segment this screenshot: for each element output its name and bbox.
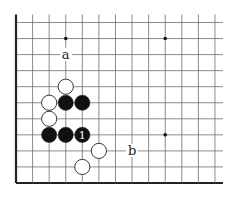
white-stone-icon [75, 159, 90, 174]
position-marker-b: b [126, 144, 138, 157]
black-stone-icon [58, 127, 73, 142]
go-board: 1 [0, 0, 238, 198]
position-marker-a: a [60, 47, 72, 60]
move-number-label: 1 [79, 129, 86, 142]
star-point-icon [163, 37, 167, 41]
black-stone-icon [58, 95, 73, 110]
white-stone-icon [42, 95, 57, 110]
white-stone-icon [91, 143, 106, 158]
stones: 1 [42, 79, 107, 174]
white-stone-icon [58, 79, 73, 94]
star-point-icon [163, 133, 167, 137]
black-stone-icon [75, 95, 90, 110]
star-point-icon [64, 37, 68, 41]
black-stone-icon [42, 127, 57, 142]
white-stone-icon [42, 111, 57, 126]
